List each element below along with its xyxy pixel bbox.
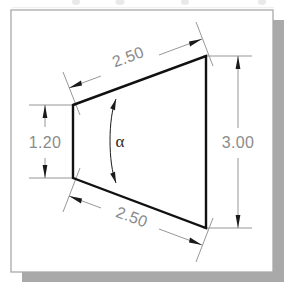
dimension-label-left: 1.20 (29, 134, 61, 151)
figure-container: 2.50 2.50 1.20 (0, 0, 287, 292)
dimension-label-right: 3.00 (222, 134, 254, 151)
scan-artifact-text-sliver (12, 0, 274, 8)
angle-label-alpha: α (116, 132, 125, 151)
technical-drawing-figure: 2.50 2.50 1.20 (0, 0, 287, 292)
